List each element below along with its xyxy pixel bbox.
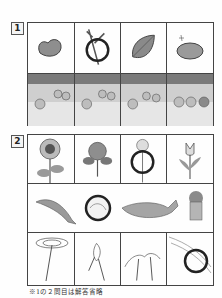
leaf-icon (121, 23, 166, 73)
scene-cats-bear-icon (167, 74, 213, 126)
footnote: ※1の２問目は解答省略 (29, 286, 103, 296)
nut-icon (167, 23, 213, 73)
q2-row-flowers (28, 135, 213, 184)
answer-circle-icon (87, 39, 109, 61)
scene-cats-icon (121, 74, 166, 126)
shell-icon (86, 196, 110, 220)
q2-cell-hand-stick[interactable] (75, 233, 121, 285)
dolphin-icon (36, 200, 76, 224)
hand-stick-icon (75, 233, 120, 285)
scene-cats-icon (75, 74, 120, 126)
answer-circle-icon (185, 250, 207, 272)
lion-icon (189, 191, 203, 220)
q1-top-row (28, 23, 213, 74)
question-2-grid (27, 134, 214, 286)
q2-row-animals (28, 184, 213, 233)
q2-cell-hand-thread[interactable] (167, 233, 213, 285)
q2-cell-hands-string[interactable] (121, 233, 167, 285)
q2-row-hands (28, 233, 213, 285)
hydrangea-icon (75, 135, 120, 183)
question-1-grid (27, 22, 214, 126)
hands-string-icon (121, 233, 166, 285)
heart-stone-icon (28, 23, 74, 73)
q1-scene-4[interactable] (167, 74, 213, 126)
q1-bottom-row (28, 74, 213, 126)
q1-cell-twig[interactable] (75, 23, 121, 73)
q1-cell-nut[interactable] (167, 23, 213, 73)
q1-scene-1[interactable] (28, 74, 75, 126)
whale-icon (122, 200, 178, 218)
q2-cell-cosmos[interactable] (121, 135, 167, 183)
q2-cell-hydrangea[interactable] (75, 135, 121, 183)
q2-cell-plate-spin[interactable] (28, 233, 75, 285)
question-2-label: 2 (11, 135, 24, 148)
twig-icon (75, 23, 120, 73)
animals-strip (28, 184, 213, 232)
q1-cell-leaf[interactable] (121, 23, 167, 73)
q1-scene-3[interactable] (121, 74, 167, 126)
q1-cell-stone[interactable] (28, 23, 75, 73)
plate-spin-icon (28, 233, 74, 285)
scene-cats-icon (28, 74, 74, 126)
q1-scene-2[interactable] (75, 74, 121, 126)
q2-cell-tulip[interactable] (167, 135, 213, 183)
question-1-label: 1 (11, 22, 24, 35)
sunflower-icon (28, 135, 74, 183)
hand-thread-icon (167, 233, 213, 285)
tulip-icon (167, 135, 213, 183)
q2-animals-strip (28, 184, 213, 232)
cosmos-icon (121, 135, 166, 183)
q2-cell-sunflower[interactable] (28, 135, 75, 183)
